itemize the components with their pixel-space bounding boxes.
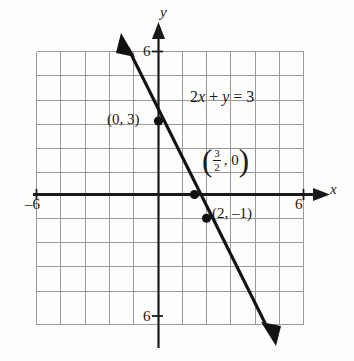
fraction-denominator: 2 bbox=[213, 162, 221, 173]
paren-open: ( bbox=[202, 148, 212, 173]
point-label-y-intercept: (0, 3) bbox=[107, 111, 140, 128]
axis-ticks bbox=[37, 52, 304, 317]
fraction-numerator: 3 bbox=[213, 148, 221, 159]
equation-plus-sign: + bbox=[209, 88, 218, 105]
equation-variable-y: y bbox=[222, 88, 229, 105]
equation-label: 2x + y = 3 bbox=[190, 88, 254, 106]
x-axis-tick-label-6: 6 bbox=[295, 196, 303, 213]
graph-figure: y x 6 6 –6 6 (0, 3) (2, –1) ( 3 2 , 0 ) … bbox=[0, 0, 354, 361]
x-axis-label: x bbox=[330, 181, 337, 198]
x-axis bbox=[33, 188, 330, 201]
y-axis bbox=[152, 22, 165, 348]
y-axis-tick-label-6: 6 bbox=[143, 43, 151, 60]
point-label-x-intercept: ( 3 2 , 0 ) bbox=[202, 148, 249, 173]
y-axis-label: y bbox=[160, 4, 167, 21]
x-axis-tick-label-neg6: –6 bbox=[25, 196, 40, 213]
point-2-neg1 bbox=[202, 214, 211, 223]
point-three-halves-0 bbox=[190, 190, 199, 199]
y-axis-tick-label-neg6: 6 bbox=[143, 308, 151, 325]
fraction-pair-tail: , 0 bbox=[224, 152, 239, 169]
point-label-2-neg1: (2, –1) bbox=[212, 205, 252, 222]
equation-coefficient: 2 bbox=[190, 88, 198, 105]
equation-right-side: = 3 bbox=[233, 88, 254, 105]
paren-close: ) bbox=[239, 148, 249, 173]
equation-variable-x: x bbox=[198, 88, 205, 105]
point-0-3 bbox=[154, 116, 163, 125]
grid-lines bbox=[37, 52, 304, 325]
fraction-three-halves: 3 2 bbox=[213, 148, 221, 172]
coordinate-plane bbox=[0, 0, 354, 361]
line-2x-plus-y-equals-3 bbox=[116, 33, 281, 346]
